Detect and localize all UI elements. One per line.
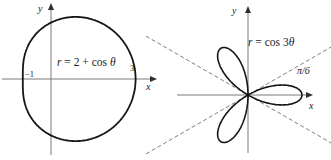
plots-canvas	[0, 0, 331, 160]
right-x-axis-label: x	[309, 101, 313, 111]
right-x-axis-arrow	[306, 92, 313, 98]
polar-curves-figure: y x −1 3 r = 2 + cos θ y x π/6 r = cos 3…	[0, 0, 331, 160]
rose-eq-func: cos 3	[265, 36, 289, 48]
limacon-eq-func: cos	[92, 56, 110, 68]
limacon-equation-label: r = 2 + cos θ	[57, 57, 116, 69]
limacon-eq-arg: θ	[110, 56, 116, 68]
left-y-axis-label: y	[38, 4, 42, 14]
left-tick-neg-1: −1	[25, 70, 34, 79]
left-x-axis-arrow	[150, 76, 157, 82]
pi-over-6-annotation: π/6	[297, 66, 310, 76]
left-tick-3: 3	[130, 64, 134, 73]
rose-equation-label: r = cos 3θ	[248, 37, 294, 49]
right-y-axis-arrow	[245, 6, 251, 13]
right-y-axis-label: y	[232, 6, 236, 16]
rose-eq-arg: θ	[289, 36, 295, 48]
limacon-eq-mid: = 2 +	[61, 56, 91, 68]
left-y-axis-arrow	[48, 3, 54, 10]
rose-eq-mid: =	[252, 36, 264, 48]
limacon-plot-axes	[2, 3, 157, 155]
left-x-axis-label: x	[146, 82, 150, 92]
